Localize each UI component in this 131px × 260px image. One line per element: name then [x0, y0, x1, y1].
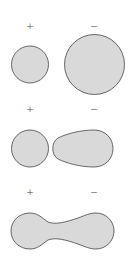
- pear-drop-2: [53, 130, 113, 167]
- small-sphere-1: [12, 46, 49, 83]
- dumbbell-3: [11, 213, 114, 249]
- diagram-canvas: [0, 0, 131, 260]
- large-sphere-1: [65, 35, 125, 95]
- small-sphere-2: [12, 130, 49, 167]
